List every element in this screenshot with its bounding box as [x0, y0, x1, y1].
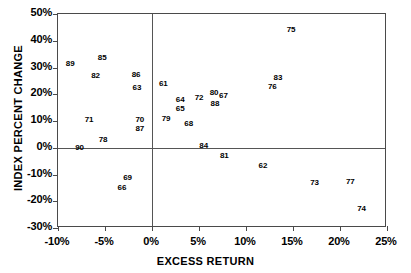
- data-point-label: 89: [66, 60, 75, 68]
- data-point-label: 74: [357, 205, 366, 213]
- data-point-label: 76: [268, 83, 277, 91]
- x-tick-label: -5%: [77, 236, 131, 247]
- data-point-label: 73: [310, 179, 319, 187]
- y-tick-label: -30%: [4, 221, 52, 232]
- zero-horizontal-line: [58, 148, 385, 149]
- data-point-label: 63: [133, 84, 142, 92]
- data-point-label: 84: [199, 142, 208, 150]
- y-tick-mark: [53, 201, 58, 202]
- y-tick-mark: [53, 41, 58, 42]
- data-point-label: 81: [220, 152, 229, 160]
- data-point-label: 67: [219, 92, 228, 100]
- x-tick-mark: [246, 226, 247, 231]
- x-tick-label: 20%: [312, 236, 366, 247]
- y-tick-label: -20%: [4, 194, 52, 205]
- data-point-label: 75: [287, 26, 296, 34]
- data-point-label: 70: [135, 116, 144, 124]
- data-point-label: 78: [99, 136, 108, 144]
- x-tick-mark: [387, 226, 388, 231]
- data-point-label: 83: [274, 74, 283, 82]
- x-tick-label: 10%: [218, 236, 272, 247]
- zero-vertical-line: [152, 14, 153, 226]
- y-tick-label: 30%: [4, 61, 52, 72]
- data-point-label: 64: [176, 96, 185, 104]
- data-point-label: 61: [159, 80, 168, 88]
- data-point-label: 68: [184, 120, 193, 128]
- data-point-label: 62: [259, 162, 268, 170]
- data-point-label: 82: [91, 72, 100, 80]
- scatter-chart-figure: INDEX PERCENT CHANGE EXCESS RETURN 50%40…: [0, 0, 411, 273]
- y-tick-label: 0%: [4, 141, 52, 152]
- y-tick-mark: [53, 148, 58, 149]
- y-tick-label: 10%: [4, 114, 52, 125]
- x-tick-mark: [105, 226, 106, 231]
- data-point-label: 90: [75, 144, 84, 152]
- y-tick-label: 20%: [4, 87, 52, 98]
- y-tick-label: 40%: [4, 34, 52, 45]
- data-point-label: 86: [132, 71, 141, 79]
- x-tick-label: 5%: [171, 236, 225, 247]
- data-point-label: 79: [162, 115, 171, 123]
- x-tick-mark: [340, 226, 341, 231]
- y-tick-mark: [53, 121, 58, 122]
- data-point-label: 69: [123, 174, 132, 182]
- plot-area: 8985828663717087789069666164728067658879…: [57, 13, 386, 227]
- x-tick-label: 15%: [265, 236, 319, 247]
- y-tick-label: -10%: [4, 168, 52, 179]
- data-point-label: 77: [346, 178, 355, 186]
- x-tick-mark: [293, 226, 294, 231]
- data-point-label: 65: [176, 105, 185, 113]
- x-tick-mark: [199, 226, 200, 231]
- x-tick-label: -10%: [30, 236, 84, 247]
- y-tick-mark: [53, 68, 58, 69]
- data-point-label: 66: [118, 184, 127, 192]
- data-point-label: 80: [210, 89, 219, 97]
- y-tick-mark: [53, 14, 58, 15]
- x-tick-mark: [58, 226, 59, 231]
- x-tick-label: 0%: [124, 236, 178, 247]
- x-tick-mark: [152, 226, 153, 231]
- y-tick-mark: [53, 175, 58, 176]
- x-axis-title: EXCESS RETURN: [0, 255, 411, 267]
- data-point-label: 71: [85, 116, 94, 124]
- x-tick-label: 25%: [359, 236, 411, 247]
- data-point-label: 85: [98, 54, 107, 62]
- data-point-label: 72: [195, 94, 204, 102]
- y-tick-mark: [53, 94, 58, 95]
- data-point-label: 87: [135, 125, 144, 133]
- y-tick-label: 50%: [4, 7, 52, 18]
- data-point-label: 88: [211, 100, 220, 108]
